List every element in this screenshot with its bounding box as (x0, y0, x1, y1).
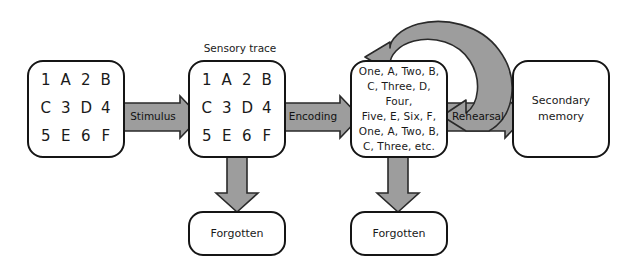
cell: C (202, 95, 213, 123)
sensory-trace-row-1: 1 A 2 B (202, 67, 273, 95)
forgotten-primary-node: Forgotten (350, 211, 448, 256)
cell: 4 (262, 95, 273, 123)
sensory-trace-row-2: C 3 D 4 (202, 95, 273, 123)
sensory-trace-caption: Sensory trace (190, 42, 290, 54)
stimulus-display-row-1: 1 A 2 B (41, 67, 112, 95)
sensory-trace-row-3: 5 E 6 F (202, 123, 273, 151)
cell: 6 (81, 123, 92, 151)
cell: F (262, 123, 273, 151)
sensory-trace-node: 1 A 2 B C 3 D 4 5 E 6 F (188, 60, 286, 158)
cell: A (61, 67, 72, 95)
cell: 5 (202, 123, 213, 151)
cell: 2 (242, 67, 253, 95)
rehearsal-arrow-label: Rehearsal (449, 110, 507, 122)
cell: E (222, 123, 233, 151)
cell: 6 (242, 123, 253, 151)
cell: 1 (202, 67, 213, 95)
forgotten-sensory-node: Forgotten (188, 211, 286, 256)
primary-memory-line: One, A, Two, B, (359, 64, 439, 79)
stimulus-arrow-label: Stimulus (125, 110, 181, 122)
cell: 1 (41, 67, 52, 95)
stimulus-display-row-2: C 3 D 4 (41, 95, 112, 123)
primary-memory-node: One, A, Two, B, C, Three, D, Four, Five,… (350, 60, 448, 158)
cell: C (41, 95, 52, 123)
cell: 3 (61, 95, 72, 123)
cell: 4 (101, 95, 112, 123)
cell: 3 (222, 95, 233, 123)
cell: F (101, 123, 112, 151)
secondary-memory-node: Secondary memory (512, 60, 610, 158)
secondary-memory-line: memory (538, 109, 584, 125)
stimulus-display-row-3: 5 E 6 F (41, 123, 112, 151)
cell: B (262, 67, 273, 95)
cell: E (61, 123, 72, 151)
forgotten-sensory-label: Forgotten (210, 227, 263, 240)
forgotten-primary-label: Forgotten (372, 227, 425, 240)
secondary-memory-line: Secondary (532, 93, 590, 109)
cell: D (242, 95, 253, 123)
primary-memory-line: C, Three, etc. (363, 139, 435, 154)
cell: 5 (41, 123, 52, 151)
primary-memory-line: One, A, Two, B, (359, 124, 439, 139)
stimulus-display-node: 1 A 2 B C 3 D 4 5 E 6 F (27, 60, 125, 158)
forget-sensory-arrow (216, 156, 258, 212)
primary-memory-line: Five, E, Six, F, (362, 109, 436, 124)
encoding-arrow-label: Encoding (285, 110, 341, 122)
cell: D (81, 95, 92, 123)
cell: 2 (81, 67, 92, 95)
primary-memory-line: C, Three, D, Four, (356, 79, 442, 109)
forget-primary-arrow (377, 156, 419, 212)
cell: B (101, 67, 112, 95)
cell: A (222, 67, 233, 95)
